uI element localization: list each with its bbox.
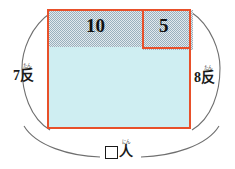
region-label-5: 5 (159, 16, 169, 35)
dimension-bottom-unit-ruby: にん 人 (119, 140, 133, 159)
dimension-left-unit: 反 (20, 69, 34, 83)
dimension-left-number: 7 (13, 69, 20, 83)
dimension-label-right: 8 たん 反 (194, 66, 215, 85)
field-area-diagram: 10 5 7 たん 反 8 たん 反 にん 人 (0, 0, 235, 169)
region-label-10: 10 (86, 16, 105, 35)
arc-bottom-left-dimension (24, 126, 100, 157)
dimension-right-unit: 反 (201, 71, 215, 85)
dimension-right-number: 8 (194, 71, 201, 85)
dimension-label-left: 7 たん 反 (13, 64, 34, 83)
dimension-right-unit-ruby: たん 反 (201, 66, 215, 85)
answer-blank-box (105, 146, 118, 159)
lower-cyan-region (48, 47, 190, 128)
dimension-label-bottom: にん 人 (105, 140, 133, 159)
dimension-left-unit-ruby: たん 反 (20, 64, 34, 83)
arc-bottom-right-dimension (141, 126, 219, 157)
dimension-bottom-unit: 人 (119, 145, 133, 159)
